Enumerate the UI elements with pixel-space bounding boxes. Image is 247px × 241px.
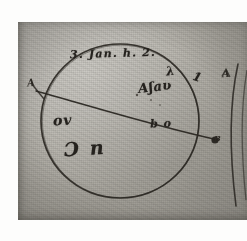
far-right-label-a: A [222, 68, 231, 80]
ink-drawing-layer [0, 0, 247, 241]
date-annotation: 3. Jan. h. 2. [70, 46, 156, 61]
manuscript-scan: 3. Jan. h. 2. λ 1 Aʃaʋ b o ov Ɔ n A B A [0, 0, 247, 241]
lower-left-note: ov [53, 112, 73, 129]
endpoint-label-a: A [26, 77, 35, 89]
adjacent-disk-arc-secondary [242, 70, 247, 200]
lower-symbol-note: Ɔ n [63, 136, 106, 161]
chord-point-label: b o [150, 117, 172, 131]
endpoint-label-b: B [214, 133, 221, 143]
ink-speckle [150, 99, 152, 101]
ink-speckle [159, 104, 161, 106]
adjacent-disk-arc [231, 64, 238, 206]
